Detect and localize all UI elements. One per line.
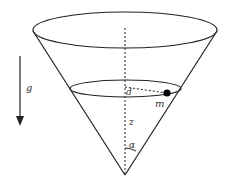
mass-point: [163, 89, 170, 96]
mass-label: m: [155, 98, 164, 109]
gravity-arrow-head: [16, 116, 24, 126]
cone-diagram: g d m z α: [0, 0, 227, 186]
cone-right-side: [125, 31, 217, 175]
angle-label: α: [129, 140, 135, 150]
distance-label: d: [126, 87, 132, 97]
height-label: z: [128, 117, 134, 127]
cone-left-side: [33, 31, 125, 175]
gravity-label: g: [26, 82, 32, 93]
